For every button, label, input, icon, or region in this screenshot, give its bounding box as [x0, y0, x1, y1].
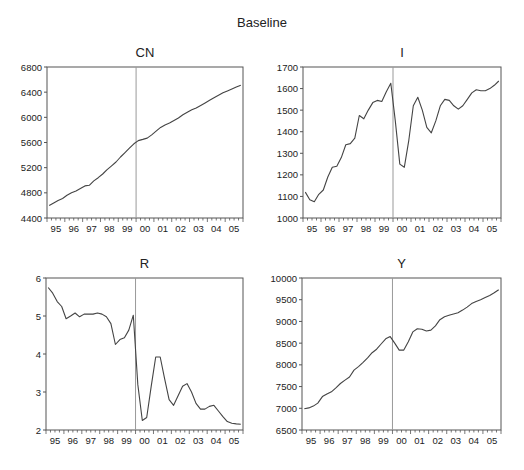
- y-tick-label: 8000: [276, 359, 297, 370]
- y-tick-label: 10000: [271, 273, 297, 284]
- y-tick-label: 9500: [276, 294, 297, 305]
- x-tick-label: 99: [378, 435, 389, 446]
- y-tick-label: 7500: [276, 381, 297, 392]
- x-tick-label: 03: [450, 435, 461, 446]
- series-line: [304, 290, 498, 409]
- plot-frame: [302, 278, 501, 430]
- chart-plot: 6500700075008000850090009500100009596979…: [0, 0, 524, 470]
- x-tick-label: 98: [360, 435, 371, 446]
- x-tick-label: 04: [469, 435, 480, 446]
- x-tick-label: 95: [306, 435, 317, 446]
- y-tick-label: 8500: [276, 338, 297, 349]
- y-tick-label: 9000: [276, 316, 297, 327]
- x-tick-label: 97: [342, 435, 353, 446]
- y-tick-label: 6500: [276, 425, 297, 436]
- x-tick-label: 96: [324, 435, 335, 446]
- x-tick-label: 00: [396, 435, 407, 446]
- x-tick-label: 01: [414, 435, 425, 446]
- x-tick-label: 05: [487, 435, 498, 446]
- x-tick-label: 02: [432, 435, 443, 446]
- y-tick-label: 7000: [276, 403, 297, 414]
- panel-y: Y650070007500800085009000950010000959697…: [0, 0, 524, 470]
